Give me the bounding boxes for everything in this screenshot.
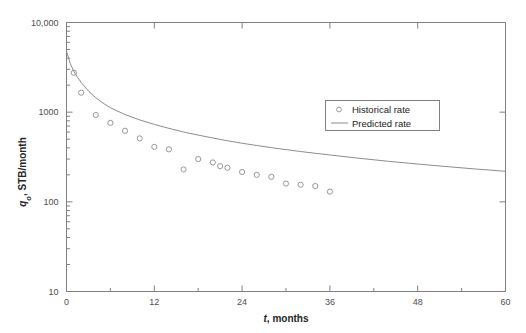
y-axis-title-rest: , STB/month: [17, 137, 28, 196]
y-axis-title: qo, STB/month: [17, 137, 33, 207]
legend-label-predicted: Predicted rate: [352, 118, 411, 129]
historical-rate-point: [166, 147, 171, 152]
chart-legend: Historical rate Predicted rate: [326, 101, 440, 131]
historical-rate-point: [122, 128, 127, 133]
decline-curve-chart: 10100100010,000 01224364860 qo, STB/mont…: [0, 0, 526, 333]
historical-rate-point: [327, 189, 332, 194]
historical-rate-point: [181, 167, 186, 172]
svg-text:qo, STB/month: qo, STB/month: [17, 137, 33, 207]
x-axis-title: t, months: [263, 313, 308, 324]
historical-rate-point: [196, 156, 201, 161]
y-tick-label: 10,000: [31, 18, 59, 28]
historical-rate-point: [254, 172, 259, 177]
svg-text:t, months: t, months: [263, 313, 308, 324]
legend-label-historical: Historical rate: [352, 104, 410, 115]
historical-rate-point: [210, 160, 215, 165]
y-tick-label: 10: [48, 287, 58, 297]
x-axis-tick-labels: 01224364860: [64, 297, 511, 307]
plot-frame: [67, 23, 506, 292]
historical-rate-point: [79, 90, 84, 95]
historical-rate-point: [269, 174, 274, 179]
historical-rate-point: [313, 183, 318, 188]
x-axis-title-rest: , months: [267, 313, 309, 324]
historical-rate-point: [240, 169, 245, 174]
historical-rate-markers: [71, 70, 332, 194]
historical-rate-point: [218, 164, 223, 169]
historical-rate-point: [108, 120, 113, 125]
historical-rate-point: [93, 112, 98, 117]
x-tick-label: 36: [325, 297, 335, 307]
chart-page: 10100100010,000 01224364860 qo, STB/mont…: [0, 0, 526, 333]
x-tick-label: 0: [64, 297, 69, 307]
historical-rate-point: [225, 165, 230, 170]
historical-rate-point: [298, 182, 303, 187]
y-tick-label: 1000: [38, 107, 58, 117]
x-tick-label: 12: [149, 297, 159, 307]
x-axis-ticks: [67, 23, 506, 292]
x-tick-label: 60: [500, 297, 510, 307]
historical-rate-point: [152, 144, 157, 149]
y-axis-ticks: [67, 23, 506, 292]
historical-rate-point: [283, 181, 288, 186]
x-tick-label: 24: [237, 297, 247, 307]
y-axis-tick-labels: 10100100010,000: [31, 18, 59, 297]
x-tick-label: 48: [413, 297, 423, 307]
historical-rate-point: [137, 136, 142, 141]
y-tick-label: 100: [43, 197, 58, 207]
